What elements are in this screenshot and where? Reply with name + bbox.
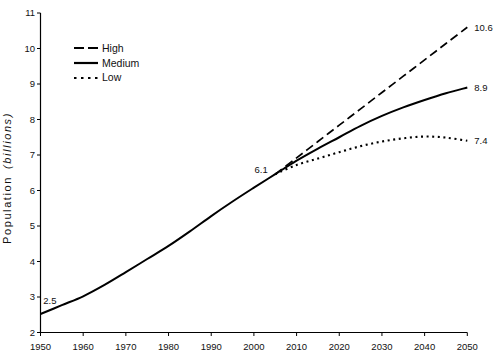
legend-item-low: Low [74, 70, 139, 85]
legend-label-high: High [102, 43, 124, 54]
y-axis-title-unit: (billions) [1, 112, 13, 169]
x-tick-label: 1990 [201, 341, 222, 352]
legend-item-medium: Medium [74, 56, 139, 71]
y-tick-label: 4 [30, 256, 35, 267]
y-axis-title: Population(billions) [1, 88, 17, 268]
legend: High Medium Low [74, 41, 139, 85]
y-tick-label: 7 [30, 149, 35, 160]
medium-solid-line-icon [74, 60, 99, 66]
legend-label-low: Low [102, 72, 121, 83]
legend-label-medium: Medium [102, 58, 139, 69]
population-projection-chart: 2345678910111950196019701980199020002010… [0, 0, 496, 361]
x-tick-label: 2020 [329, 341, 350, 352]
x-tick-label: 2030 [371, 341, 392, 352]
end-value-label-low: 7.4 [474, 135, 487, 146]
x-tick-label: 2000 [243, 341, 264, 352]
x-tick-label: 1960 [73, 341, 94, 352]
x-tick-label: 1950 [30, 341, 51, 352]
y-tick-label: 2 [30, 327, 35, 338]
series-line-medium [41, 88, 468, 314]
x-tick-label: 1970 [115, 341, 136, 352]
y-tick-label: 6 [30, 185, 35, 196]
y-axis-title-main: Population [1, 176, 13, 244]
y-tick-label: 9 [30, 78, 35, 89]
annotation-label: 2.5 [43, 295, 56, 306]
end-value-label-high: 10.6 [474, 22, 493, 33]
y-tick-label: 8 [30, 114, 35, 125]
y-tick-label: 10 [24, 43, 35, 54]
annotation-label: 6.1 [255, 164, 268, 175]
y-tick-label: 3 [30, 291, 35, 302]
high-dashed-line-icon [74, 45, 99, 51]
x-tick-label: 1980 [158, 341, 179, 352]
legend-item-high: High [74, 41, 139, 56]
y-tick-label: 11 [25, 7, 35, 18]
end-value-label-medium: 8.9 [474, 82, 487, 93]
y-tick-label: 5 [30, 220, 35, 231]
x-tick-label: 2050 [457, 341, 478, 352]
x-tick-label: 2010 [286, 341, 307, 352]
low-dotted-line-icon [74, 75, 99, 81]
series-line-high [275, 27, 467, 174]
x-tick-label: 2040 [414, 341, 435, 352]
